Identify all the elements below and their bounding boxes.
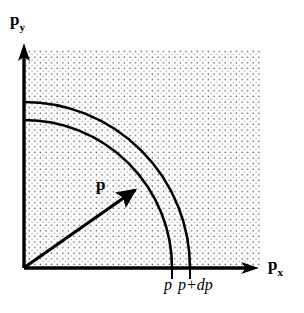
stippled-region [25, 50, 261, 267]
momentum-vector-label: p [96, 176, 105, 193]
diagram-canvas [0, 0, 304, 313]
tick-label-p: p [164, 277, 172, 293]
x-axis-label: px [268, 256, 283, 276]
tick-label-p-plus-dp: p+dp [178, 277, 213, 293]
momentum-shell-figure: py px p p p+dp [0, 0, 304, 313]
y-axis-label: py [10, 11, 25, 31]
y-axis-label-subscript: y [19, 21, 25, 33]
x-axis-label-subscript: x [277, 266, 283, 278]
